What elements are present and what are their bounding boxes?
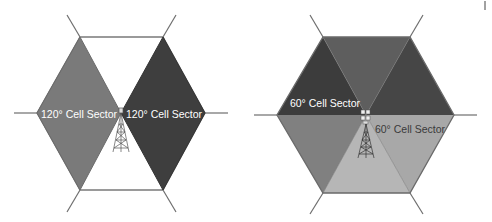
hexagon-120-degree: 120° Cell Sector 120° Cell Sector — [14, 15, 228, 212]
sectorization-diagram: 120° Cell Sector 120° Cell Sector — [0, 0, 492, 222]
sector-label-120-left: 120° Cell Sector — [41, 108, 117, 120]
sector-label-120-right: 120° Cell Sector — [126, 108, 202, 120]
sector-label-60-lower-right: 60° Cell Sector — [375, 123, 446, 135]
hexagon-60-degree: 60° Cell Sector 60° Cell Sector — [254, 15, 477, 214]
sector-label-60-upper-left: 60° Cell Sector — [290, 97, 361, 109]
